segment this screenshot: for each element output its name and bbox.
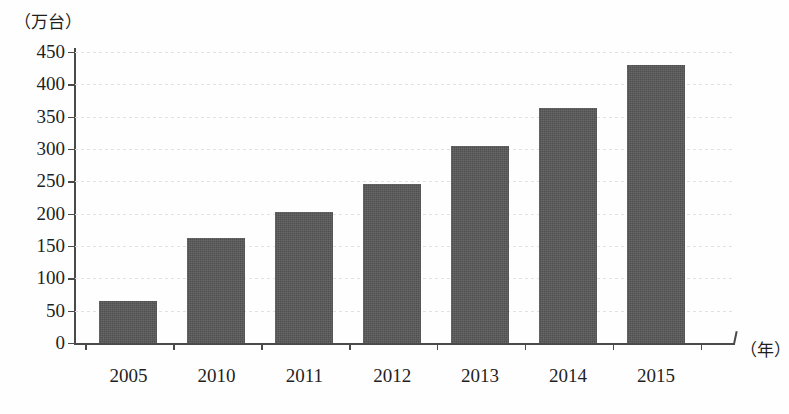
y-axis-tick-label: 400: [37, 74, 66, 93]
y-axis-tick-mark: [68, 84, 75, 85]
bar: [275, 212, 333, 343]
bar: [99, 301, 157, 343]
y-axis-tick-label: 100: [37, 268, 66, 287]
x-axis-tick-label: 2013: [435, 365, 525, 387]
y-axis-tick-mark: [68, 149, 75, 150]
y-axis-tick-label: 50: [46, 301, 65, 320]
x-axis-tick-label: 2011: [259, 365, 349, 387]
y-axis-tick-label: 450: [37, 42, 66, 61]
y-axis-tick-label: 0: [56, 333, 66, 352]
x-axis-tick-label: 2014: [523, 365, 613, 387]
y-axis-tick-mark: [68, 343, 75, 344]
x-axis-tick-mark: [525, 343, 526, 350]
y-axis-tick-label: 150: [37, 236, 66, 255]
x-axis-unit-label: （年）: [740, 336, 789, 361]
y-axis-unit-label: （万台）: [14, 8, 82, 33]
y-axis-tick-label: 350: [37, 107, 66, 126]
bar: [539, 108, 597, 343]
gridline: [75, 52, 735, 53]
plot-area: 050100150200250300350400450 200520102011…: [74, 52, 735, 343]
y-axis-tick-mark: [68, 214, 75, 215]
x-axis-tick-mark: [261, 343, 262, 350]
x-axis-tick-label: 2005: [83, 365, 173, 387]
y-axis-tick-mark: [68, 52, 75, 53]
x-axis-tick-label: 2015: [611, 365, 701, 387]
y-axis-line: [74, 48, 76, 343]
y-axis-tick-mark: [68, 278, 75, 279]
y-axis-tick-mark: [68, 246, 75, 247]
x-axis-tick-mark: [349, 343, 350, 350]
x-axis-tick-mark: [85, 343, 86, 350]
bar: [627, 65, 685, 343]
y-axis-tick-mark: [68, 311, 75, 312]
y-axis-tick-label: 250: [37, 171, 66, 190]
bar-chart: （万台） 050100150200250300350400450 2005201…: [0, 0, 789, 414]
x-axis-tick-label: 2012: [347, 365, 437, 387]
x-axis-tick-mark: [437, 343, 438, 350]
y-axis-tick-label: 300: [37, 139, 66, 158]
bar: [451, 146, 509, 343]
y-axis-tick-mark: [68, 117, 75, 118]
x-axis-arrow-icon: [733, 331, 737, 344]
x-axis-tick-mark: [701, 343, 702, 350]
x-axis-tick-mark: [613, 343, 614, 350]
y-axis-tick-label: 200: [37, 204, 66, 223]
bar: [187, 238, 245, 343]
y-axis-tick-mark: [68, 181, 75, 182]
x-axis-tick-mark: [173, 343, 174, 350]
x-axis-tick-label: 2010: [171, 365, 261, 387]
bar: [363, 184, 421, 343]
